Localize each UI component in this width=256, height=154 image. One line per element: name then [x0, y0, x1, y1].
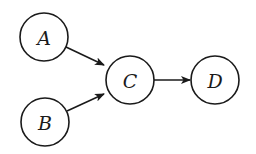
node-b: B — [21, 98, 69, 146]
edge-a-to-c-arrow — [66, 47, 104, 65]
node-c: C — [106, 56, 154, 104]
node-d-label: D — [206, 70, 222, 92]
nodes-layer: ABCD — [20, 13, 239, 146]
node-a: A — [20, 13, 68, 61]
node-c-label: C — [123, 70, 138, 92]
node-d: D — [191, 56, 239, 104]
node-b-label: B — [37, 112, 52, 134]
directed-graph-diagram: ABCD — [0, 0, 256, 154]
edge-b-to-c-arrow — [67, 94, 104, 111]
node-a-label: A — [35, 27, 51, 49]
